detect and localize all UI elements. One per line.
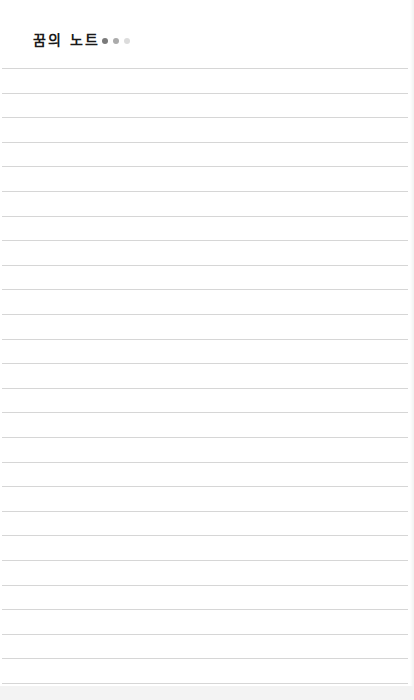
ruled-line: [2, 363, 408, 364]
ruled-line: [2, 265, 408, 266]
ruled-line: [2, 93, 408, 94]
ruled-line: [2, 634, 408, 635]
ruled-line: [2, 462, 408, 463]
ruled-line: [2, 560, 408, 561]
ruled-line: [2, 658, 408, 659]
ruled-line: [2, 535, 408, 536]
ruled-lines-area[interactable]: [2, 0, 408, 700]
ruled-line: [2, 585, 408, 586]
ruled-line: [2, 216, 408, 217]
ruled-line: [2, 388, 408, 389]
ruled-line: [2, 289, 408, 290]
ruled-line: [2, 609, 408, 610]
ruled-line: [2, 412, 408, 413]
ruled-line: [2, 117, 408, 118]
ruled-line: [2, 437, 408, 438]
ruled-line: [2, 240, 408, 241]
ruled-line: [2, 683, 408, 684]
ruled-line: [2, 68, 408, 69]
notebook-page: 꿈의 노트: [0, 0, 414, 700]
ruled-line: [2, 314, 408, 315]
ruled-line: [2, 511, 408, 512]
ruled-line: [2, 339, 408, 340]
ruled-line: [2, 486, 408, 487]
ruled-line: [2, 166, 408, 167]
bottom-strip: [0, 686, 414, 700]
ruled-line: [2, 142, 408, 143]
page-edge: [410, 0, 414, 700]
ruled-line: [2, 191, 408, 192]
